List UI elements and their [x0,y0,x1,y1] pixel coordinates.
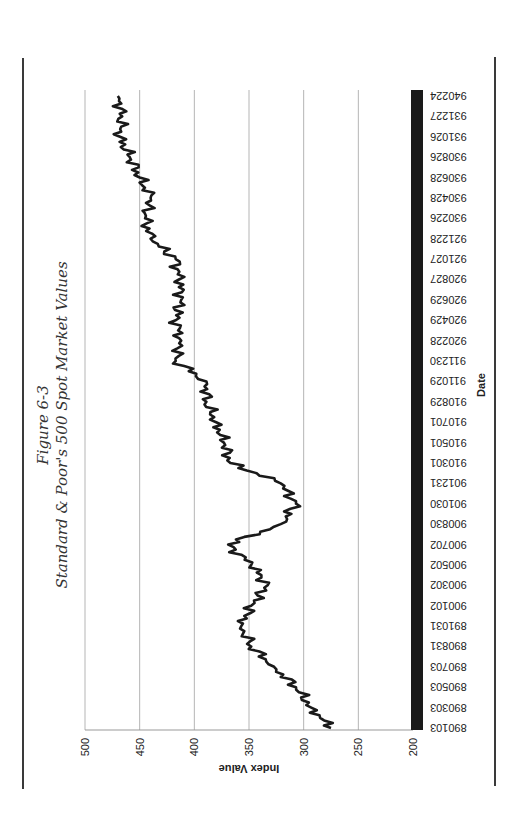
x-tick-label: 921027 [430,253,467,265]
x-tick-label: 920827 [430,273,467,285]
x-tick-label: 911029 [430,375,466,387]
x-tick-label: 901030 [430,498,467,510]
y-tick-label: 200 [407,738,419,756]
x-tick-label: 931026 [430,131,467,143]
x-tick-label: 910829 [430,396,467,408]
x-tick-label: 940224 [430,90,467,102]
x-tick-label: 900702 [430,539,467,551]
x-tick-label: 890503 [430,681,467,693]
page-left-rule [22,58,24,789]
x-tick-label: 931227 [430,110,467,122]
x-tick-label: 901231 [430,477,467,489]
y-axis-title: Index Value [219,763,280,775]
y-tick-label: 300 [298,738,310,756]
x-tick-label: 920228 [430,335,467,347]
x-tick-label: 930226 [430,212,467,224]
y-tick-label: 450 [134,738,146,756]
figure-6-3: Figure 6-3 Standard & Poor's 500 Spot Ma… [30,60,500,790]
x-tick-label: 890831 [430,640,467,652]
x-tick-label: 920629 [430,294,467,306]
x-axis-title: Date [475,373,487,397]
x-axis-tick-band [411,90,423,730]
x-tick-label: 890303 [430,702,467,714]
y-tick-label: 400 [188,738,200,756]
x-tick-label: 890103 [430,722,467,734]
x-tick-label: 900502 [430,559,467,571]
x-tick-label: 891031 [430,620,467,632]
line-chart: 2002503003504004505008901038903038905038… [30,60,500,790]
x-tick-label: 910701 [430,416,467,428]
x-tick-label: 921228 [430,233,467,245]
x-tick-label: 911230 [430,355,466,367]
x-tick-label: 900830 [430,518,467,530]
x-tick-label: 910501 [430,437,467,449]
x-tick-label: 900302 [430,579,467,591]
y-tick-label: 250 [352,738,364,756]
x-tick-label: 930628 [430,172,467,184]
x-tick-label: 930826 [430,151,467,163]
x-tick-label: 900102 [430,600,467,612]
x-tick-label: 910301 [430,457,467,469]
x-tick-label: 920429 [430,314,467,326]
y-tick-label: 350 [243,738,255,756]
x-tick-label: 890703 [430,661,467,673]
y-tick-label: 500 [79,738,91,756]
series-line-sp500 [113,96,333,728]
x-tick-label: 930428 [430,192,467,204]
